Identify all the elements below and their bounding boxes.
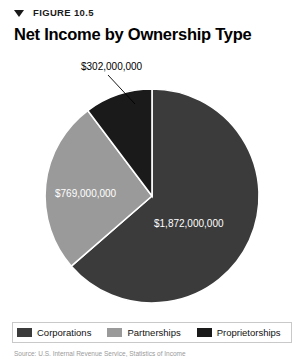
chart-legend: Corporations Partnerships Proprietorship… [12, 322, 292, 343]
source-note: Source: U.S. Internal Revenue Service, S… [14, 350, 294, 357]
legend-item-corporations[interactable]: Corporations [17, 328, 91, 338]
legend-label-corporations: Corporations [37, 328, 91, 338]
slice-label-partnerships: $769,000,000 [55, 188, 117, 199]
page-title: Net Income by Ownership Type [14, 25, 252, 44]
legend-swatch-corporations [17, 328, 32, 337]
legend-item-partnerships[interactable]: Partnerships [107, 328, 180, 338]
legend-swatch-partnerships [107, 328, 122, 337]
legend-swatch-proprietorships [197, 328, 212, 337]
legend-label-proprietorships: Proprietorships [217, 328, 281, 338]
legend-item-proprietorships[interactable]: Proprietorships [197, 328, 281, 338]
slice-label-proprietorships: $302,000,000 [81, 61, 143, 72]
legend-label-partnerships: Partnerships [127, 328, 180, 338]
pie-chart-svg: $302,000,000 $769,000,000 $1,872,000,000 [0, 55, 304, 313]
figure-card: FIGURE 10.5 Net Income by Ownership Type… [0, 0, 304, 359]
figure-header: FIGURE 10.5 [14, 7, 94, 18]
triangle-down-icon[interactable] [14, 10, 24, 17]
figure-number-label: FIGURE 10.5 [33, 7, 94, 18]
slice-label-corporations: $1,872,000,000 [154, 218, 224, 229]
pie-chart: $302,000,000 $769,000,000 $1,872,000,000 [0, 55, 304, 313]
